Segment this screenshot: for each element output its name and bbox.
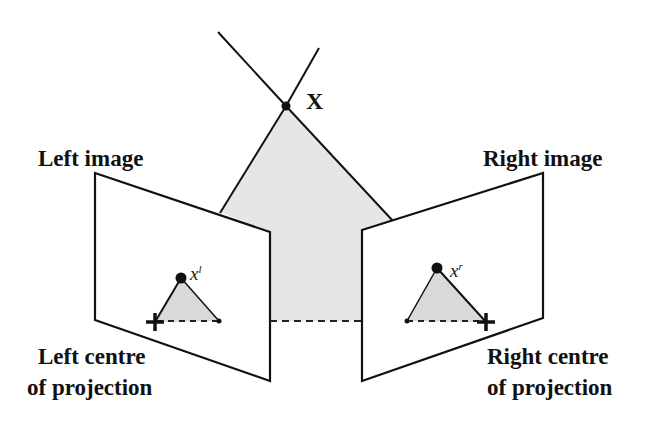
right-projected-point-label: xr: [450, 256, 463, 281]
right-point-superscript: r: [458, 260, 462, 272]
world-point-x: [282, 102, 291, 111]
left-projected-point: [176, 273, 187, 284]
right-centre-label-line1: Right centre: [487, 344, 609, 370]
right-image-label: Right image: [483, 146, 602, 172]
right-centre-label-line2: of projection: [487, 375, 612, 401]
left-projected-point-label: xl: [190, 259, 202, 284]
ray-left-upper: [218, 32, 286, 106]
left-centre-label-line1: Left centre: [38, 344, 146, 370]
left-centre-label-line2: of projection: [27, 375, 152, 401]
left-epipole-dot: [217, 319, 222, 324]
right-projected-point: [432, 263, 443, 274]
left-image-label: Left image: [38, 146, 143, 172]
left-point-superscript: l: [198, 263, 201, 275]
stereo-vision-diagram: X Left image Right image Left centre of …: [0, 0, 662, 428]
right-epipole-dot: [405, 319, 410, 324]
world-point-label: X: [306, 89, 323, 113]
